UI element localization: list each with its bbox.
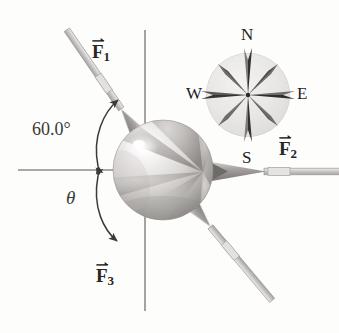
angle-label-theta: θ (66, 188, 75, 207)
force-label-f2-sub: 2 (291, 146, 298, 161)
compass-label-south: S (242, 149, 251, 166)
figure-canvas (0, 0, 339, 333)
f3-shaft-ferrule (221, 241, 239, 261)
f2-shaft-ferrule (268, 168, 290, 176)
force-label-f3-sub: 3 (108, 273, 115, 288)
compass-rose (201, 48, 295, 142)
force-label-f3-main: F (96, 265, 108, 286)
f1-shaft-ferrule (95, 73, 112, 94)
force-label-f2-main: F (279, 138, 291, 159)
force-label-f2: F 2 (279, 139, 297, 160)
force-label-f3: F 3 (96, 266, 114, 287)
compass-label-west: W (186, 85, 202, 102)
force-vector-f2 (204, 159, 339, 184)
angle-label-60: 60.0° (32, 120, 71, 138)
angle-theta-arc (96, 176, 117, 241)
force-label-f1-sub: 1 (104, 49, 111, 64)
f3-shaft (208, 225, 275, 303)
compass-label-east: E (297, 85, 307, 102)
force-label-f1-main: F (92, 41, 104, 62)
physics-figure: F 1 F 2 F 3 60.0° θ N W E S (0, 0, 339, 333)
force-label-f1: F 1 (92, 42, 110, 63)
compass-label-north: N (241, 26, 253, 43)
